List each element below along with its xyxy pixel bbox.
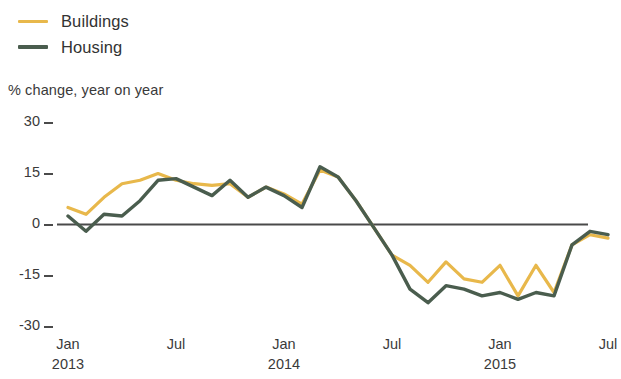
chart-container: Buildings Housing % change, year on year…	[0, 0, 594, 379]
plot-area	[0, 0, 594, 379]
